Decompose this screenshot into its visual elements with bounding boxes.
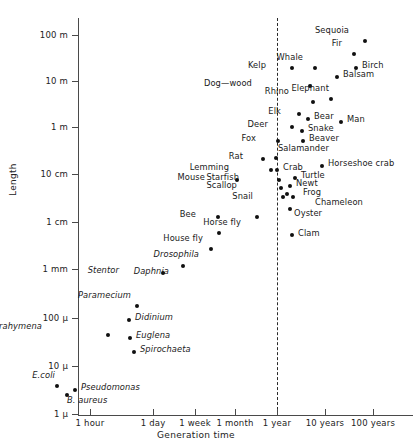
x-axis-tick (153, 409, 154, 416)
data-point (288, 207, 292, 211)
data-point (285, 192, 289, 196)
data-point-label: Deer (248, 119, 268, 129)
data-point (135, 304, 139, 308)
y-axis-line (78, 18, 79, 416)
data-point-label: Clam (298, 228, 320, 238)
data-point-label: Didinium (135, 312, 173, 322)
data-point (161, 271, 165, 275)
data-point (274, 156, 278, 160)
data-point (261, 157, 265, 161)
data-point (269, 168, 273, 172)
y-axis-tick-label: 1 µ (54, 409, 68, 419)
x-axis-tick (195, 409, 196, 416)
x-axis-tick (235, 409, 236, 416)
y-axis-tick-label: 100 µ (43, 313, 68, 323)
data-point-label: Crab (283, 162, 303, 172)
data-point-label: Fir (332, 38, 342, 48)
x-axis-tick (90, 409, 91, 416)
data-point (352, 52, 356, 56)
data-point (279, 186, 283, 190)
data-point-label: Horse fly (203, 217, 241, 227)
data-point-label: Beaver (309, 133, 339, 143)
data-point (128, 336, 132, 340)
data-point (291, 195, 295, 199)
x-axis-tick-label: 100 years (351, 418, 395, 428)
data-point-label: Snake (308, 123, 334, 133)
y-axis-tick-label: 100 m (40, 30, 68, 40)
data-point-label: House fly (163, 233, 203, 243)
data-point-label: Man (347, 114, 365, 124)
data-point-label: Rat (229, 151, 243, 161)
y-axis-tick (72, 414, 79, 415)
data-point-label: Spirochaeta (140, 344, 191, 354)
data-point (339, 120, 343, 124)
data-point-label: Balsam (343, 69, 374, 79)
data-point-label: Sequoia (315, 25, 349, 35)
data-point (313, 66, 317, 70)
data-point-label: Chameleon (315, 197, 363, 207)
data-point-label: Bee (180, 209, 196, 219)
data-point-label: Fox (241, 133, 256, 143)
data-point-label: Dog—wood (204, 78, 252, 88)
data-point-label: Rhino (265, 86, 289, 96)
data-point-label: Snail (232, 191, 253, 201)
data-point-label: Elephant (291, 83, 329, 93)
y-axis-title: Length (8, 163, 18, 196)
data-point (329, 97, 333, 101)
organism-size-vs-generation-time-scatter-chart: 100 m10 m1 m10 cm1 cm1 mm100 µ10 µ1 µ 1 … (0, 0, 420, 443)
x-axis-tick (277, 409, 278, 416)
data-point-label: Salamander (278, 143, 329, 153)
data-point-label: Elk (268, 106, 281, 116)
data-point (132, 350, 136, 354)
data-point (288, 184, 292, 188)
data-point-label: Stentor (88, 265, 119, 275)
data-point (306, 117, 310, 121)
data-point-label: Frog (303, 187, 321, 197)
data-point (297, 112, 301, 116)
data-point (335, 75, 339, 79)
data-point (320, 164, 324, 168)
y-axis-tick-label: 10 cm (41, 169, 68, 179)
y-axis-tick (72, 366, 79, 367)
y-axis-tick-label: 1 m (51, 122, 68, 132)
data-point (300, 129, 304, 133)
data-point (127, 318, 131, 322)
y-axis-tick-label: 10 m (45, 76, 68, 86)
data-point (281, 195, 285, 199)
data-point-label: Tetrahymena (0, 321, 42, 331)
data-point-label: E.coli (32, 370, 55, 380)
data-point (255, 215, 259, 219)
data-point-label: Scallop (206, 180, 237, 190)
data-point (55, 384, 59, 388)
data-point (275, 168, 279, 172)
data-point (181, 264, 185, 268)
x-axis-tick-label: 1 week (179, 418, 211, 428)
data-point-label: Lemming (190, 162, 229, 172)
data-point-label: Horseshoe crab (328, 158, 394, 168)
x-axis-tick-label: 1 month (216, 418, 253, 428)
data-point-label: Whale (277, 52, 303, 62)
data-point-label: Euglena (136, 330, 170, 340)
data-point-label: B. aureus (67, 395, 107, 405)
x-axis-tick-label: 10 years (306, 418, 345, 428)
data-point (73, 388, 77, 392)
y-axis-tick (72, 318, 79, 319)
x-axis-tick-label: 1 year (263, 418, 291, 428)
data-point (277, 178, 281, 182)
data-point-label: Pseudomonas (81, 382, 140, 392)
data-point (217, 231, 221, 235)
data-point-label: Paramecium (78, 290, 131, 300)
data-point (209, 247, 213, 251)
y-axis-tick (72, 127, 79, 128)
data-point (106, 333, 110, 337)
y-axis-tick-label: 1 mm (43, 264, 68, 274)
data-point-label: Kelp (248, 60, 266, 70)
x-axis-line (78, 415, 413, 416)
y-axis-tick (72, 269, 79, 270)
x-axis-title: Generation time (157, 430, 235, 440)
data-point-label: Oyster (294, 208, 322, 218)
data-point (290, 233, 294, 237)
data-point-label: Mouse (178, 172, 205, 182)
data-point (311, 100, 315, 104)
data-point (363, 39, 367, 43)
